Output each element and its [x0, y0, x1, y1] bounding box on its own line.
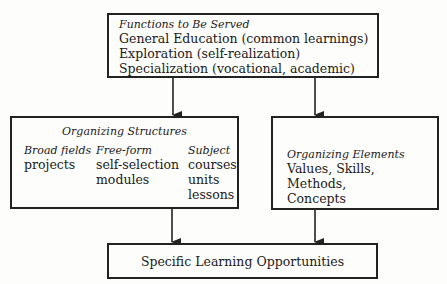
function-item: Exploration (self-realization): [119, 46, 377, 61]
column-item: projects: [24, 157, 91, 172]
column-item: lessons: [188, 187, 237, 202]
structure-column-free-form: Free-form self-selection modules: [96, 144, 179, 187]
column-heading: Free-form: [96, 144, 179, 157]
organizing-structures-box: Organizing Structures Broad fields proje…: [10, 116, 239, 209]
function-item: Specialization (vocational, academic): [119, 61, 377, 76]
outcome-label: Specific Learning Opportunities: [141, 254, 344, 269]
column-item: modules: [96, 172, 179, 187]
elements-line: Values, Skills, Methods,: [287, 161, 437, 191]
elements-line: Concepts: [287, 191, 437, 206]
column-item: courses: [188, 157, 237, 172]
functions-title: Functions to Be Served: [119, 18, 377, 31]
organizing-elements-box: Organizing Elements Values, Skills, Meth…: [271, 116, 439, 210]
elements-title: Organizing Elements: [287, 148, 437, 161]
column-heading: Broad fields: [24, 144, 91, 157]
structures-title: Organizing Structures: [12, 125, 237, 138]
column-heading: Subject: [188, 144, 237, 157]
function-item: General Education (common learnings): [119, 31, 377, 46]
column-item: self-selection: [96, 157, 179, 172]
functions-box: Functions to Be Served General Education…: [107, 13, 379, 78]
structure-column-broad-fields: Broad fields projects: [24, 144, 91, 172]
structure-column-subject: Subject courses units lessons: [188, 144, 237, 202]
column-item: units: [188, 172, 237, 187]
learning-opportunities-box: Specific Learning Opportunities: [107, 243, 378, 279]
